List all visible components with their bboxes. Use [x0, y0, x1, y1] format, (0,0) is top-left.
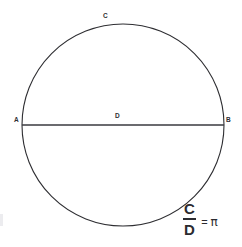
- fraction-bar: [183, 218, 196, 220]
- point-label-d: D: [115, 113, 120, 120]
- point-label-c: C: [103, 13, 108, 20]
- scan-edge-artifact: [0, 214, 3, 226]
- point-label-a: A: [14, 117, 19, 124]
- circle-diagram-figure: A B C D C D = π: [0, 0, 242, 247]
- formula-pi-symbol: π: [211, 215, 218, 229]
- pi-formula: C D = π: [183, 201, 218, 237]
- formula-fraction: C D: [183, 201, 196, 237]
- formula-equals-sign: =: [201, 216, 207, 228]
- formula-numerator: C: [183, 201, 196, 216]
- point-label-b: B: [226, 117, 231, 124]
- formula-denominator: D: [183, 222, 196, 237]
